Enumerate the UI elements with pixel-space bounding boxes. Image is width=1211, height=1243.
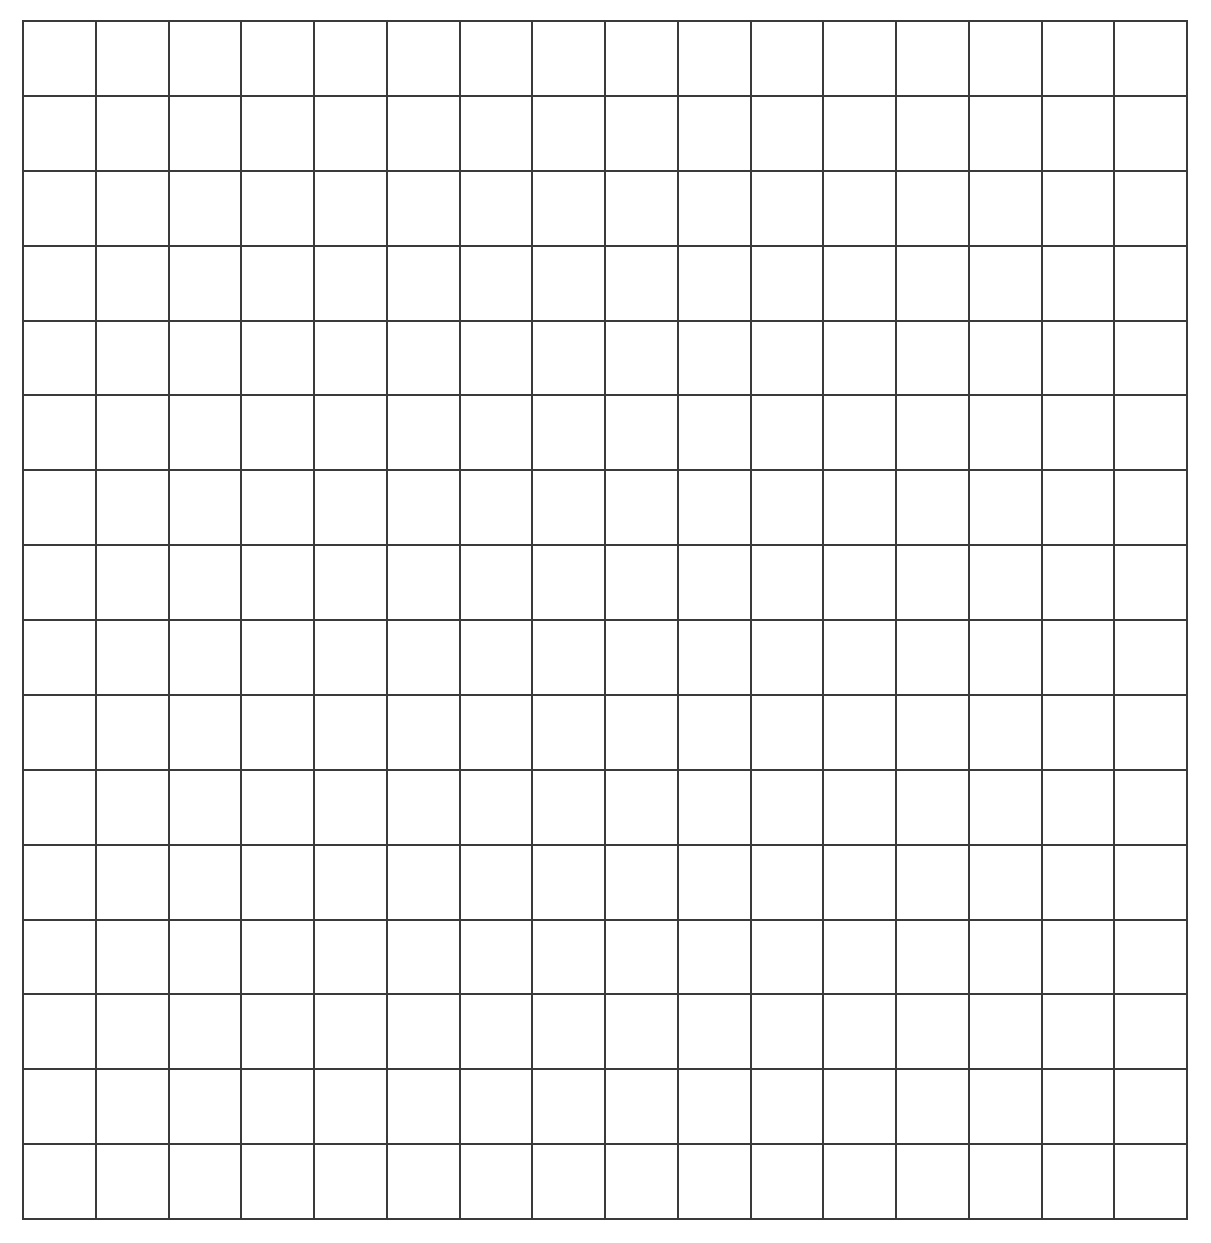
grid-cell: [97, 97, 170, 172]
grid-cell: [24, 471, 97, 546]
grid-cell: [679, 22, 752, 97]
grid-cell: [752, 172, 825, 247]
grid-cell: [388, 172, 461, 247]
grid-cell: [242, 97, 315, 172]
grid-cell: [897, 172, 970, 247]
grid-cell: [388, 97, 461, 172]
grid-cell: [679, 97, 752, 172]
grid-cell: [315, 546, 388, 621]
grid-cell: [388, 322, 461, 397]
grid-cell: [1043, 247, 1116, 322]
grid-cell: [242, 396, 315, 471]
grid-cell: [679, 1145, 752, 1220]
grid-cell: [24, 1145, 97, 1220]
grid-cell: [970, 696, 1043, 771]
grid-cell: [533, 1070, 606, 1145]
grid-cell: [461, 1070, 534, 1145]
grid-cell: [824, 1145, 897, 1220]
grid-cell: [606, 696, 679, 771]
grid-cell: [170, 995, 243, 1070]
grid-cell: [170, 1145, 243, 1220]
grid-cell: [461, 471, 534, 546]
grid-cell: [242, 995, 315, 1070]
grid-cell: [752, 546, 825, 621]
grid-cell: [897, 22, 970, 97]
grid-cell: [824, 921, 897, 996]
grid-cell: [897, 322, 970, 397]
grid-cell: [824, 546, 897, 621]
grid-cell: [970, 322, 1043, 397]
grid-cell: [315, 696, 388, 771]
grid-cell: [315, 247, 388, 322]
grid-cell: [824, 995, 897, 1070]
grid-cell: [97, 995, 170, 1070]
grid-cell: [170, 696, 243, 771]
grid-cell: [1115, 1145, 1188, 1220]
grid-cell: [533, 621, 606, 696]
grid-cell: [315, 771, 388, 846]
grid-cell: [752, 921, 825, 996]
grid-cell: [242, 621, 315, 696]
grid-cell: [679, 247, 752, 322]
grid-cell: [897, 247, 970, 322]
grid-cell: [1115, 995, 1188, 1070]
grid-cell: [897, 696, 970, 771]
grid-cell: [1115, 247, 1188, 322]
grid-cell: [170, 172, 243, 247]
grid-cell: [170, 97, 243, 172]
grid-cell: [388, 471, 461, 546]
grid-cell: [970, 1070, 1043, 1145]
grid-cell: [1043, 172, 1116, 247]
grid-cell: [606, 247, 679, 322]
grid-cell: [24, 22, 97, 97]
grid-cell: [170, 1070, 243, 1145]
grid-cell: [970, 172, 1043, 247]
grid-cell: [242, 846, 315, 921]
grid-cell: [752, 995, 825, 1070]
grid-cell: [388, 396, 461, 471]
grid-cell: [242, 771, 315, 846]
grid-cell: [1043, 921, 1116, 996]
grid-cell: [606, 546, 679, 621]
grid-cell: [1043, 696, 1116, 771]
grid-cell: [824, 247, 897, 322]
grid-cell: [24, 1070, 97, 1145]
grid-cell: [897, 995, 970, 1070]
grid-cell: [315, 846, 388, 921]
grid-cell: [24, 172, 97, 247]
grid-cell: [1043, 846, 1116, 921]
grid-cell: [461, 396, 534, 471]
grid-cell: [970, 396, 1043, 471]
grid-cell: [606, 97, 679, 172]
grid-cell: [315, 995, 388, 1070]
grid-cell: [752, 22, 825, 97]
grid-cell: [533, 396, 606, 471]
grid-cell: [606, 846, 679, 921]
grid-cell: [606, 921, 679, 996]
grid-cell: [388, 771, 461, 846]
grid-cell: [970, 921, 1043, 996]
grid-cell: [461, 921, 534, 996]
grid-cell: [752, 322, 825, 397]
grid-cell: [97, 771, 170, 846]
grid-cell: [461, 846, 534, 921]
grid-cell: [970, 97, 1043, 172]
grid-cell: [606, 1145, 679, 1220]
grid-cell: [24, 995, 97, 1070]
grid-cell: [24, 771, 97, 846]
grid-cell: [1043, 546, 1116, 621]
grid-cell: [388, 1070, 461, 1145]
grid-cell: [897, 921, 970, 996]
grid-cell: [824, 322, 897, 397]
grid-cell: [24, 621, 97, 696]
grid-cell: [897, 396, 970, 471]
grid-cell: [24, 546, 97, 621]
grid-cell: [970, 771, 1043, 846]
grid-cell: [679, 995, 752, 1070]
grid-cell: [679, 1070, 752, 1145]
grid-cell: [315, 322, 388, 397]
grid-cell: [97, 22, 170, 97]
grid-cell: [824, 696, 897, 771]
grid-cell: [533, 696, 606, 771]
grid-cell: [679, 771, 752, 846]
